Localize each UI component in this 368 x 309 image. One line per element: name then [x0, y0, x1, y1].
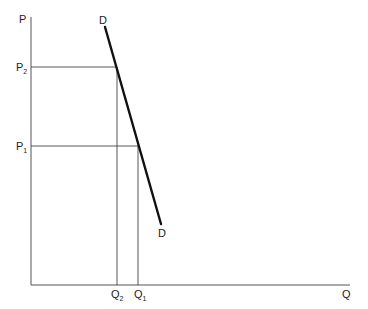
- p2-label: P2: [16, 61, 27, 75]
- demand-curve: [105, 27, 161, 224]
- demand-diagram: P Q D D P2 P1 Q2 Q1: [0, 0, 368, 309]
- demand-label-top: D: [99, 14, 107, 26]
- price-axis-label: P: [19, 13, 26, 25]
- q2-label: Q2: [111, 288, 124, 302]
- demand-label-bottom: D: [158, 227, 166, 239]
- p1-label: P1: [16, 140, 27, 154]
- q1-label: Q1: [134, 288, 147, 302]
- quantity-axis-label: Q: [342, 288, 351, 300]
